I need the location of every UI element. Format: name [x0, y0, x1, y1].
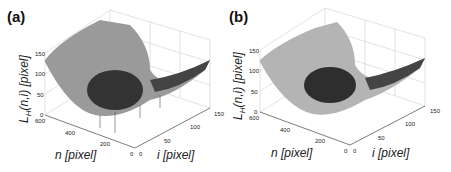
i-tick: 150 — [214, 111, 224, 117]
z-tick: 150 — [249, 48, 259, 54]
n-tick: 600 — [249, 115, 259, 121]
n-tick: 0 — [130, 151, 133, 157]
n-axis-label: n [pixel] — [55, 148, 96, 162]
panel-a: (a) 150 100 50 0 600 400 200 0 0 50 100 … — [0, 0, 225, 172]
z-tick: 150 — [35, 51, 45, 57]
i-tick: 0 — [139, 151, 142, 157]
z-tick: 50 — [251, 89, 258, 95]
panel-label-b: (b) — [229, 8, 248, 25]
i-axis-label: i [pixel] — [372, 146, 409, 160]
n-tick: 600 — [35, 118, 45, 124]
i-tick: 100 — [405, 121, 415, 127]
n-tick: 400 — [65, 130, 75, 136]
panel-b: (b) 150 100 50 0 600 400 200 0 0 50 100 … — [225, 0, 450, 172]
i-tick: 50 — [164, 138, 171, 144]
z-tick: 100 — [35, 71, 45, 77]
i-tick: 0 — [353, 148, 356, 154]
panel-label-a: (a) — [7, 8, 25, 25]
z-tick: 100 — [249, 68, 259, 74]
n-tick: 400 — [280, 127, 290, 133]
z-axis-label: LH(n,i) [pixel] — [17, 55, 33, 123]
i-axis-label: i [pixel] — [157, 148, 194, 162]
z-tick: 50 — [37, 92, 44, 98]
i-tick: 50 — [378, 135, 385, 141]
n-tick: 0 — [344, 148, 347, 154]
n-axis-label: n [pixel] — [271, 146, 312, 160]
n-tick: 200 — [100, 141, 110, 147]
z-axis-label: LH(n,i) [pixel] — [231, 52, 247, 120]
n-tick: 200 — [315, 138, 325, 144]
i-tick: 150 — [430, 108, 440, 114]
i-tick: 100 — [190, 124, 200, 130]
surface-plot-b — [225, 0, 451, 172]
surface-plot-a — [0, 0, 225, 172]
